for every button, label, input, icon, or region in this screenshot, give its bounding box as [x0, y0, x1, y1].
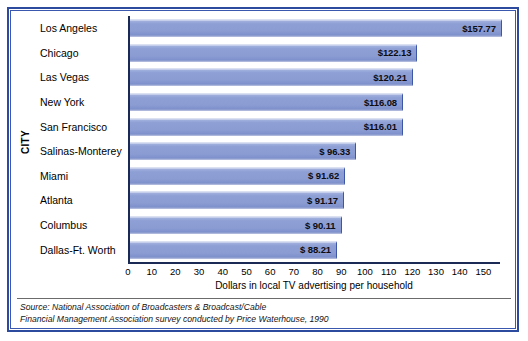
x-tick-label: 140: [452, 266, 468, 277]
category-label: Las Vegas: [40, 71, 89, 83]
x-tick-label: 150: [475, 266, 491, 277]
bar-container: $116.01: [128, 118, 403, 135]
bar-row: Las Vegas$120.21: [16, 65, 512, 90]
bar-value-label: $116.08: [364, 97, 397, 108]
bar-row: Dallas-Ft. Worth$ 88.21: [16, 237, 512, 262]
bar: $ 91.62: [128, 167, 345, 184]
bar-row: Chicago$122.13: [16, 41, 512, 66]
x-tick-label: 120: [404, 266, 420, 277]
x-tick-label: 40: [217, 266, 228, 277]
x-axis-line: [128, 262, 500, 264]
bar-container: $ 91.17: [128, 192, 344, 209]
plot-area: CITY Los Angeles$157.77Chicago$122.13Las…: [16, 16, 512, 288]
footnote-line-1: Source: National Association of Broadcas…: [20, 302, 500, 314]
x-tick-label: 100: [357, 266, 373, 277]
category-label: San Francisco: [40, 121, 107, 133]
bar-container: $ 90.11: [128, 217, 342, 234]
x-tick-label: 20: [170, 266, 181, 277]
bar: $ 90.11: [128, 217, 342, 234]
footnote-line-2: Financial Management Association survey …: [20, 314, 500, 326]
bar-row: San Francisco$116.01: [16, 114, 512, 139]
bar-row: Miami$ 91.62: [16, 164, 512, 189]
x-tick-label: 10: [146, 266, 157, 277]
bar-value-label: $122.13: [378, 47, 412, 58]
bar-container: $116.08: [128, 94, 403, 111]
bar-value-label: $ 91.62: [308, 170, 339, 181]
x-axis-title: Dollars in local TV advertising per hous…: [128, 280, 500, 291]
bar-value-label: $116.01: [364, 121, 397, 132]
x-tick-label: 80: [312, 266, 323, 277]
x-tick-label: 110: [381, 266, 396, 277]
bar: $157.77: [128, 20, 502, 37]
bar-container: $120.21: [128, 69, 413, 86]
bar-value-label: $ 96.33: [319, 146, 350, 157]
bar-row: Los Angeles$157.77: [16, 16, 512, 41]
bar: $ 91.17: [128, 192, 344, 209]
bar-row: Salinas-Monterey$ 96.33: [16, 139, 512, 164]
x-tick-label: 0: [125, 266, 130, 277]
bar: $116.01: [128, 118, 403, 135]
bar-container: $122.13: [128, 44, 417, 61]
bar: $ 96.33: [128, 143, 356, 160]
x-tick-label: 90: [336, 266, 347, 277]
chart-figure: CITY Los Angeles$157.77Chicago$122.13Las…: [0, 0, 528, 341]
x-tick-label: 30: [194, 266, 205, 277]
y-axis-line: [128, 16, 130, 263]
bar: $ 88.21: [128, 241, 337, 258]
bar-rows: Los Angeles$157.77Chicago$122.13Las Vega…: [16, 16, 512, 262]
category-label: New York: [40, 96, 84, 108]
bar-value-label: $ 91.17: [307, 195, 338, 206]
category-label: Salinas-Monterey: [40, 145, 122, 157]
x-axis-ticks: 0102030405060708090100110120130140150: [16, 266, 512, 280]
footnote-divider: [17, 298, 511, 299]
x-tick-label: 50: [241, 266, 252, 277]
bar-value-label: $ 90.11: [305, 220, 335, 231]
category-label: Miami: [40, 170, 68, 182]
category-label: Dallas-Ft. Worth: [40, 244, 116, 256]
bar-container: $157.77: [128, 20, 502, 37]
bar: $116.08: [128, 94, 403, 111]
bar-row: New York$116.08: [16, 90, 512, 115]
x-tick-label: 130: [428, 266, 444, 277]
x-tick-label: 70: [289, 266, 300, 277]
bar: $120.21: [128, 69, 413, 86]
bar-value-label: $ 88.21: [300, 244, 331, 255]
x-tick-label: 60: [265, 266, 276, 277]
bar-value-label: $120.21: [373, 72, 407, 83]
bar-row: Columbus$ 90.11: [16, 213, 512, 238]
bar-container: $ 96.33: [128, 143, 356, 160]
bar-container: $ 91.62: [128, 167, 345, 184]
bar: $122.13: [128, 44, 417, 61]
bar-row: Atlanta$ 91.17: [16, 188, 512, 213]
category-label: Los Angeles: [40, 22, 97, 34]
source-footnote: Source: National Association of Broadcas…: [20, 302, 500, 325]
category-label: Columbus: [40, 219, 87, 231]
bar-container: $ 88.21: [128, 241, 337, 258]
category-label: Chicago: [40, 47, 79, 59]
category-label: Atlanta: [40, 194, 73, 206]
bar-value-label: $157.77: [462, 23, 496, 34]
